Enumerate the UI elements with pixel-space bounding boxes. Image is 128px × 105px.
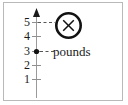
circled-x-marker bbox=[56, 13, 80, 37]
figure-root: 5 4 3 2 1 pounds bbox=[0, 0, 128, 105]
tick-label-2: 2 bbox=[18, 59, 30, 71]
axis-dot-marker bbox=[34, 49, 39, 54]
tick-label-5: 5 bbox=[18, 16, 30, 28]
tick-label-1: 1 bbox=[18, 73, 30, 85]
axis-arrowhead-icon bbox=[33, 8, 40, 17]
tick-label-3: 3 bbox=[18, 45, 30, 57]
tick-label-4: 4 bbox=[18, 30, 30, 42]
pounds-label: pounds bbox=[53, 45, 91, 59]
